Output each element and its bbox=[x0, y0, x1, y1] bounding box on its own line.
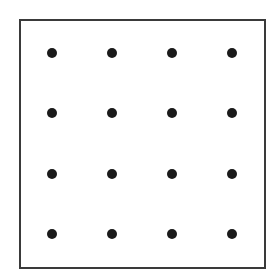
grid-dot bbox=[227, 169, 237, 179]
grid-dot bbox=[47, 48, 57, 58]
grid-dot bbox=[167, 229, 177, 239]
grid-dot bbox=[107, 48, 117, 58]
grid-dot bbox=[167, 48, 177, 58]
grid-dot bbox=[107, 229, 117, 239]
grid-dot bbox=[167, 108, 177, 118]
grid-dot bbox=[227, 48, 237, 58]
grid-dot bbox=[47, 229, 57, 239]
grid-dot bbox=[47, 108, 57, 118]
grid-dot bbox=[47, 169, 57, 179]
grid-dot bbox=[167, 169, 177, 179]
grid-dot bbox=[227, 229, 237, 239]
grid-dot bbox=[107, 108, 117, 118]
grid-dot bbox=[107, 169, 117, 179]
grid-dot bbox=[227, 108, 237, 118]
